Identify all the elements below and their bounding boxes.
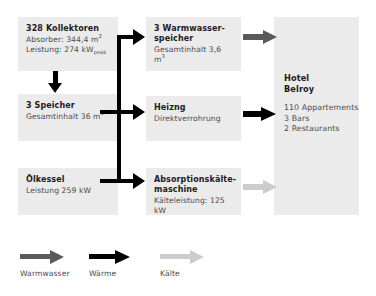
energy-flow-diagram: 328 Kollektoren Absorber: 344,4 m2 Leist… xyxy=(0,0,376,296)
box-speicher-gesamtinhalt: Gesamtinhalt 36 m3 xyxy=(26,112,110,122)
box-kollektoren: 328 Kollektoren Absorber: 344,4 m2 Leist… xyxy=(18,17,118,71)
connector-main-vertical-bus xyxy=(117,35,121,183)
box-absorptionskaeltemaschine-kaelteleistung: Kälteleistung: 125 kW xyxy=(154,196,233,216)
box-oelkessel-title: Ölkessel xyxy=(26,175,110,185)
subscript-peak: peak xyxy=(94,49,107,55)
superscript-squared: 2 xyxy=(98,33,102,39)
legend-arrowhead-kaelte xyxy=(190,250,204,264)
superscript-cubed: 3 xyxy=(162,53,166,59)
hotel-facility-list: 110 Appartements 3 Bars 2 Restaurants xyxy=(284,103,358,135)
box-heizng-title: Heizng xyxy=(154,103,233,113)
box-kollektoren-absorber: Absorber: 344,4 m2 xyxy=(26,35,110,45)
arrow-warmwasser-shaft xyxy=(243,34,265,40)
legend-label-kaelte: Kälte xyxy=(160,269,180,278)
legend-arrowhead-waerme xyxy=(115,250,130,264)
box-warmwasserspeicher-title-line1: 3 Warmwasser- xyxy=(154,24,233,34)
box-speicher-title: 3 Speicher xyxy=(26,101,110,111)
box-heizng: Heizng Direktverrohrung xyxy=(146,96,241,141)
box-speicher-gesamtinhalt-text: Gesamtinhalt 36 m xyxy=(26,112,101,121)
legend-label-warmwasser: Warmwasser xyxy=(20,269,70,278)
arrow-waerme-shaft xyxy=(243,111,263,117)
arrowhead-right-warmwasserspeicher xyxy=(133,29,145,45)
arrowhead-warmwasser xyxy=(263,30,277,44)
legend-arrow-waerme-shaft xyxy=(89,254,117,259)
hotel-facility-restaurants: 2 Restaurants xyxy=(284,124,358,135)
arrowhead-waerme xyxy=(261,107,276,121)
box-absorptionskaeltemaschine: Absorptionskälte- maschine Kälteleistung… xyxy=(146,168,241,215)
hotel-facility-appartements: 110 Appartements xyxy=(284,103,358,114)
box-hotel-title-line2: Belroy xyxy=(284,84,358,95)
box-warmwasserspeicher-gesamtinhalt: Gesamtinhalt 3,6 m3 xyxy=(154,45,233,65)
arrowhead-kaelte xyxy=(263,180,277,194)
box-heizng-direktverrohrung: Direktverrohrung xyxy=(154,114,233,124)
legend: Warmwasser Wärme Kälte xyxy=(0,246,376,294)
legend-arrowhead-warmwasser xyxy=(50,250,64,264)
arrowhead-down-kollektoren-to-speicher xyxy=(48,83,62,93)
legend-arrow-kaelte-shaft xyxy=(160,254,192,259)
legend-arrow-warmwasser-shaft xyxy=(20,254,52,259)
box-kollektoren-leistung: Leistung: 274 kWpeak xyxy=(26,45,110,55)
box-hotel-title-line1: Hotel xyxy=(284,73,358,84)
connector-speicher-to-heizng xyxy=(100,110,135,114)
hotel-content: Hotel Belroy 110 Appartements 3 Bars 2 R… xyxy=(284,73,358,135)
box-absorptionskaeltemaschine-title-line1: Absorptionskälte- xyxy=(154,175,233,185)
box-warmwasserspeicher: 3 Warmwasser- speicher Gesamtinhalt 3,6 … xyxy=(146,17,241,71)
arrowhead-right-absorptionskaeltemaschine xyxy=(133,173,145,189)
box-hotel-belroy: Hotel Belroy 110 Appartements 3 Bars 2 R… xyxy=(274,17,359,215)
box-oelkessel-leistung: Leistung 259 kW xyxy=(26,186,110,196)
legend-label-waerme: Wärme xyxy=(89,269,116,278)
arrowhead-right-heizng xyxy=(133,104,145,120)
hotel-facility-bars: 3 Bars xyxy=(284,114,358,125)
box-kollektoren-leistung-text: Leistung: 274 kW xyxy=(26,45,94,54)
box-warmwasserspeicher-title-line2: speicher xyxy=(154,34,233,44)
box-kollektoren-absorber-text: Absorber: 344,4 m xyxy=(26,35,98,44)
arrow-kaelte-shaft xyxy=(243,184,265,190)
box-speicher: 3 Speicher Gesamtinhalt 36 m3 xyxy=(18,94,118,141)
box-oelkessel: Ölkessel Leistung 259 kW xyxy=(18,168,118,215)
box-absorptionskaeltemaschine-title-line2: maschine xyxy=(154,185,233,195)
